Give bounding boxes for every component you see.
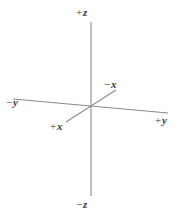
label-negative-x-sign: − xyxy=(104,78,111,90)
label-positive-y-axis: y xyxy=(162,114,167,126)
coordinate-axes-diagram: +z −z −y +y −x +x xyxy=(0,0,181,216)
label-positive-z: +z xyxy=(76,7,88,18)
label-negative-x-axis: x xyxy=(111,78,117,90)
label-positive-y-sign: + xyxy=(155,114,162,126)
label-negative-x: −x xyxy=(104,79,117,90)
label-positive-x-sign: + xyxy=(50,120,57,132)
label-positive-y: +y xyxy=(155,115,167,126)
label-negative-y: −y xyxy=(6,97,18,108)
label-negative-z-sign: − xyxy=(76,198,83,210)
label-negative-y-axis: y xyxy=(13,96,18,108)
label-negative-y-sign: − xyxy=(6,96,13,108)
axes-lines-group xyxy=(0,0,181,216)
label-positive-z-sign: + xyxy=(76,6,83,18)
label-positive-x-axis: x xyxy=(57,120,63,132)
label-negative-z-axis: z xyxy=(83,198,88,210)
label-positive-z-axis: z xyxy=(83,6,88,18)
label-negative-z: −z xyxy=(76,199,88,210)
label-positive-x: +x xyxy=(50,121,63,132)
